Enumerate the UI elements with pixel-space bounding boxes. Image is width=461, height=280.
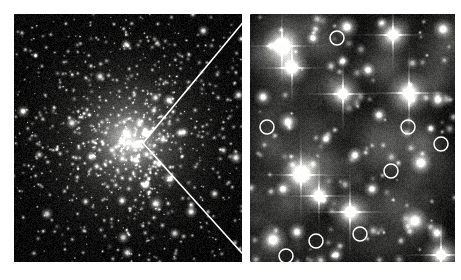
panel-globular-cluster-wide-field	[14, 14, 242, 262]
hst-zoom-starfield-canvas	[250, 14, 455, 262]
wide-field-starfield-canvas	[14, 14, 242, 262]
figure-root	[0, 0, 461, 280]
panel-hst-zoom-field	[250, 14, 455, 262]
figure-caption	[0, 0, 1, 1]
